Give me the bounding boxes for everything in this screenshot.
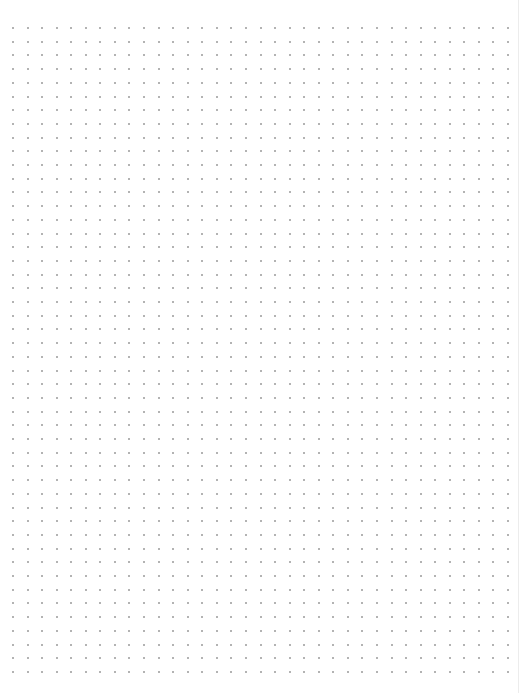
grid-dot	[99, 191, 101, 193]
grid-dot	[260, 397, 262, 399]
grid-dot	[303, 520, 305, 522]
grid-dot	[172, 630, 174, 632]
grid-dot	[143, 41, 145, 43]
grid-dot	[216, 507, 218, 509]
grid-dot	[361, 150, 363, 152]
grid-dot	[260, 548, 262, 550]
grid-dot	[347, 328, 349, 330]
grid-dot	[230, 548, 232, 550]
grid-dot	[391, 616, 393, 618]
grid-dot	[245, 150, 247, 152]
grid-dot	[463, 561, 465, 563]
grid-dot	[391, 315, 393, 317]
grid-dot	[492, 452, 494, 454]
grid-dot	[245, 41, 247, 43]
grid-dot	[201, 370, 203, 372]
grid-dot	[260, 68, 262, 70]
grid-dot	[201, 328, 203, 330]
grid-dot	[158, 424, 160, 426]
grid-dot	[463, 109, 465, 111]
grid-dot	[463, 41, 465, 43]
grid-dot	[99, 507, 101, 509]
grid-dot	[332, 575, 334, 577]
grid-dot	[56, 370, 58, 372]
grid-dot	[114, 233, 116, 235]
grid-dot	[318, 150, 320, 152]
grid-dot	[303, 671, 305, 673]
grid-dot	[303, 356, 305, 358]
grid-dot	[376, 178, 378, 180]
grid-dot	[274, 493, 276, 495]
grid-dot	[492, 630, 494, 632]
grid-dot	[172, 260, 174, 262]
grid-dot	[361, 96, 363, 98]
grid-dot	[114, 534, 116, 536]
grid-dot	[85, 342, 87, 344]
grid-dot	[99, 548, 101, 550]
grid-dot	[12, 82, 14, 84]
grid-dot	[434, 383, 436, 385]
grid-dot	[492, 178, 494, 180]
grid-dot	[303, 164, 305, 166]
grid-dot	[70, 315, 72, 317]
grid-dot	[12, 301, 14, 303]
grid-dot	[376, 260, 378, 262]
page-edge-line	[518, 0, 519, 693]
grid-dot	[56, 178, 58, 180]
grid-dot	[172, 246, 174, 248]
grid-dot	[391, 123, 393, 125]
grid-dot	[114, 479, 116, 481]
grid-dot	[478, 328, 480, 330]
grid-dot	[70, 370, 72, 372]
grid-dot	[376, 301, 378, 303]
grid-dot	[128, 246, 130, 248]
grid-dot	[85, 260, 87, 262]
grid-dot	[85, 274, 87, 276]
grid-dot	[274, 260, 276, 262]
grid-dot	[99, 630, 101, 632]
grid-dot	[99, 657, 101, 659]
grid-dot	[172, 150, 174, 152]
grid-dot	[216, 260, 218, 262]
grid-dot	[303, 342, 305, 344]
grid-dot	[376, 575, 378, 577]
grid-dot	[405, 54, 407, 56]
grid-dot	[507, 41, 509, 43]
grid-dot	[420, 575, 422, 577]
grid-dot	[303, 315, 305, 317]
grid-dot	[376, 616, 378, 618]
grid-dot	[70, 260, 72, 262]
grid-dot	[463, 575, 465, 577]
grid-dot	[492, 397, 494, 399]
grid-dot	[56, 644, 58, 646]
grid-dot	[158, 301, 160, 303]
grid-dot	[260, 315, 262, 317]
grid-dot	[216, 82, 218, 84]
grid-dot	[70, 493, 72, 495]
grid-dot	[70, 465, 72, 467]
grid-dot	[201, 479, 203, 481]
grid-dot	[420, 301, 422, 303]
grid-dot	[12, 644, 14, 646]
grid-dot	[245, 438, 247, 440]
grid-dot	[12, 246, 14, 248]
grid-dot	[245, 205, 247, 207]
grid-dot	[405, 630, 407, 632]
grid-dot	[391, 287, 393, 289]
grid-dot	[172, 383, 174, 385]
grid-dot	[201, 315, 203, 317]
grid-dot	[289, 96, 291, 98]
grid-dot	[318, 260, 320, 262]
grid-dot	[434, 397, 436, 399]
grid-dot	[114, 589, 116, 591]
grid-dot	[361, 411, 363, 413]
grid-dot	[128, 452, 130, 454]
grid-dot	[27, 630, 29, 632]
grid-dot	[332, 109, 334, 111]
grid-dot	[260, 520, 262, 522]
grid-dot	[12, 178, 14, 180]
grid-dot	[70, 328, 72, 330]
grid-dot	[172, 342, 174, 344]
grid-dot	[41, 671, 43, 673]
grid-dot	[70, 479, 72, 481]
